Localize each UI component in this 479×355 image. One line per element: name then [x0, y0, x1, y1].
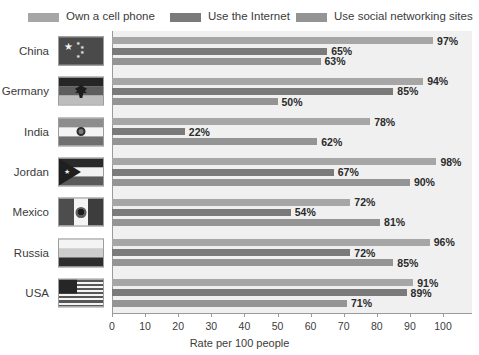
flag-jordan-icon: ★ [58, 157, 104, 186]
x-axis-tick [112, 313, 113, 317]
category-row: Jordan★ [0, 152, 112, 192]
bar-value-label-mexico-series-2: 81% [384, 217, 405, 228]
chart-legend: Own a cell phone Use the Internet Use so… [0, 6, 479, 28]
bar-jordan-series-0[interactable] [112, 158, 436, 165]
x-axis-tick [344, 313, 345, 317]
bar-jordan-series-1[interactable] [112, 169, 334, 176]
category-label-mexico: Mexico [13, 206, 49, 218]
category-row: India [0, 112, 112, 152]
x-axis-tick-label: 90 [404, 320, 416, 332]
bar-value-label-jordan-series-2: 90% [414, 177, 435, 188]
flag-russia-icon [58, 238, 104, 267]
x-axis-tick-label: 60 [305, 320, 317, 332]
x-axis-tick [145, 313, 146, 317]
x-axis-tick [377, 313, 378, 317]
bar-value-label-india-series-0: 78% [374, 116, 395, 127]
category-row: Russia [0, 232, 112, 272]
legend-swatch-own-a-cell-phone [28, 13, 59, 22]
x-axis-title: Rate per 100 people [0, 337, 479, 349]
x-axis-tick-label: 0 [109, 320, 115, 332]
category-label-jordan: Jordan [14, 166, 49, 178]
bar-value-label-jordan-series-0: 98% [440, 157, 461, 168]
category-label-germany: Germany [2, 85, 49, 97]
flag-germany-icon [58, 77, 104, 106]
x-axis-tick [211, 313, 212, 317]
bar-value-label-china-series-2: 63% [325, 56, 346, 67]
bar-china-series-0[interactable] [112, 37, 433, 44]
category-label-usa: USA [25, 287, 49, 299]
category-label-russia: Russia [14, 247, 49, 259]
x-axis-tick-label: 30 [205, 320, 217, 332]
bar-value-label-germany-series-0: 94% [427, 76, 448, 87]
bar-china-series-2[interactable] [112, 58, 321, 65]
x-axis-tick [178, 313, 179, 317]
flag-star-icon: ★ [76, 54, 80, 59]
category-label-china: China [19, 45, 49, 57]
bar-germany-series-2[interactable] [112, 98, 278, 105]
bar-value-label-usa-series-1: 89% [411, 288, 432, 299]
bar-chart: Own a cell phone Use the Internet Use so… [0, 0, 479, 355]
bar-russia-series-2[interactable] [112, 259, 393, 266]
flag-china-icon: ★★★★★ [58, 37, 104, 66]
bar-value-label-china-series-0: 97% [437, 36, 458, 47]
bar-india-series-2[interactable] [112, 138, 317, 145]
bar-china-series-1[interactable] [112, 48, 327, 55]
bar-value-label-russia-series-1: 72% [354, 247, 375, 258]
bar-germany-series-0[interactable] [112, 78, 423, 85]
category-row: Germany [0, 71, 112, 111]
legend-label-use-social-networking-sites: Use social networking sites [334, 11, 473, 23]
bar-india-series-1[interactable] [112, 128, 185, 135]
bar-value-label-germany-series-2: 50% [282, 96, 303, 107]
bar-value-label-india-series-2: 62% [321, 137, 342, 148]
legend-label-own-a-cell-phone: Own a cell phone [66, 11, 155, 23]
flag-star-icon: ★ [64, 42, 73, 52]
bar-usa-series-1[interactable] [112, 289, 407, 296]
x-axis-line [112, 313, 472, 314]
x-axis-tick [311, 313, 312, 317]
x-axis-tick-label: 70 [338, 320, 350, 332]
flag-star-icon: ★ [80, 50, 84, 55]
category-row: USA [0, 273, 112, 313]
x-axis-tick-label: 80 [371, 320, 383, 332]
legend-swatch-use-social-networking-sites [296, 13, 327, 22]
x-axis-tick [278, 313, 279, 317]
x-axis-tick-label: 10 [139, 320, 151, 332]
bar-value-label-india-series-1: 22% [189, 126, 210, 137]
legend-label-use-the-internet: Use the Internet [208, 11, 290, 23]
bar-mexico-series-0[interactable] [112, 199, 350, 206]
bar-usa-series-0[interactable] [112, 279, 413, 286]
bar-value-label-russia-series-2: 85% [397, 258, 418, 269]
category-row: Mexico [0, 192, 112, 232]
x-axis-tick-label: 100 [434, 320, 452, 332]
bar-russia-series-1[interactable] [112, 249, 350, 256]
bar-value-label-jordan-series-1: 67% [338, 167, 359, 178]
category-label-india: India [24, 126, 49, 138]
category-row: China★★★★★ [0, 31, 112, 71]
bar-value-label-germany-series-1: 85% [397, 86, 418, 97]
bar-russia-series-0[interactable] [112, 239, 430, 246]
x-axis-tick [410, 313, 411, 317]
bar-jordan-series-2[interactable] [112, 179, 410, 186]
legend-swatch-use-the-internet [170, 13, 201, 22]
legend-item-use-the-internet[interactable]: Use the Internet [170, 6, 290, 28]
flag-india-icon [58, 117, 104, 146]
legend-item-use-social-networking-sites[interactable]: Use social networking sites [296, 6, 473, 28]
x-axis-tick [443, 313, 444, 317]
bar-usa-series-2[interactable] [112, 300, 347, 307]
bar-germany-series-1[interactable] [112, 88, 393, 95]
x-axis-tick [244, 313, 245, 317]
flag-mexico-icon [58, 198, 104, 227]
flag-usa-icon [58, 278, 104, 307]
bar-value-label-mexico-series-0: 72% [354, 197, 375, 208]
bar-value-label-usa-series-2: 71% [351, 298, 372, 309]
x-axis-tick-label: 40 [239, 320, 251, 332]
x-axis-tick-label: 20 [172, 320, 184, 332]
bar-mexico-series-1[interactable] [112, 209, 291, 216]
bar-value-label-mexico-series-1: 54% [295, 207, 316, 218]
bar-value-label-russia-series-0: 96% [434, 237, 455, 248]
bar-mexico-series-2[interactable] [112, 219, 380, 226]
x-axis-tick-label: 50 [272, 320, 284, 332]
legend-item-own-a-cell-phone[interactable]: Own a cell phone [28, 6, 155, 28]
bar-india-series-0[interactable] [112, 118, 370, 125]
